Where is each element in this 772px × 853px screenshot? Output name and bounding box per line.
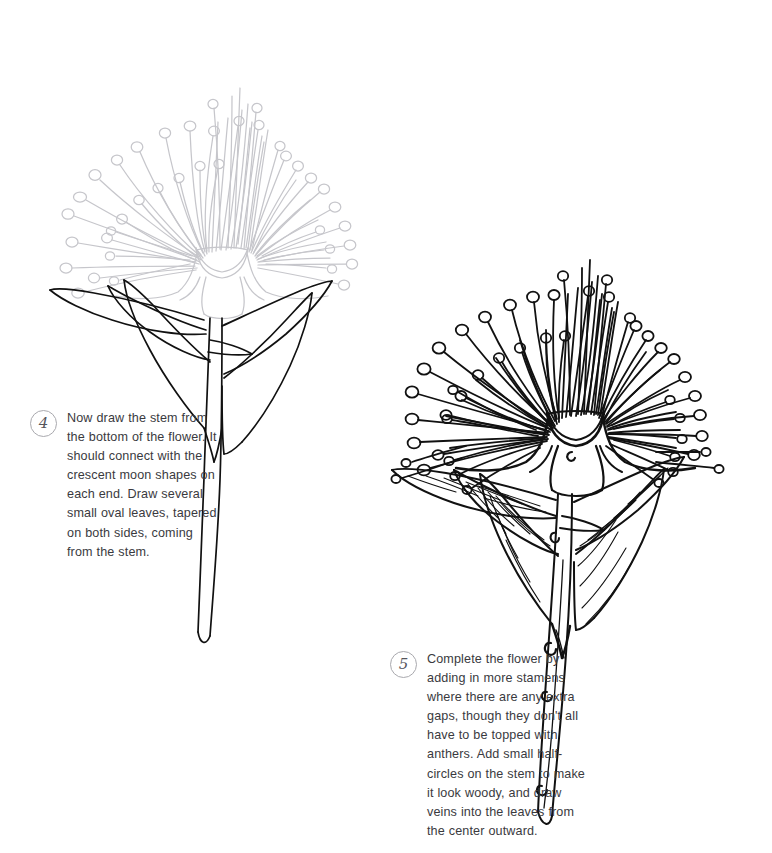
step-4-text-block: 4 Now draw the stem from the bottom of t… [30,409,220,562]
step-5-badge: 5 [390,651,417,678]
step-5-flower-head [391,260,723,496]
step-4-flower-head [60,88,358,319]
tutorial-page: 4 Now draw the stem from the bottom of t… [0,0,772,853]
step-5-instruction: Complete the flower by adding in more st… [427,650,587,841]
step-5-text-block: 5 Complete the flower by adding in more … [390,650,590,841]
step-4-badge: 4 [30,410,57,437]
step-5-number: 5 [399,657,409,672]
step-4-instruction: Now draw the stem from the bottom of the… [67,409,217,562]
step-4-number: 4 [39,416,49,431]
